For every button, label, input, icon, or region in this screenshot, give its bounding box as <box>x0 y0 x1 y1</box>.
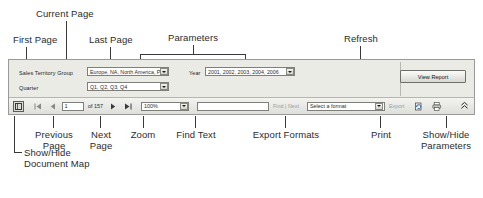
param-label-sales-territory-group: Sales Territory Group <box>19 69 73 77</box>
first-page-icon[interactable] <box>32 101 43 112</box>
callout-export-formats: Export Formats <box>247 129 325 140</box>
callout-show-hide-document-map: Show/Hide Document Map <box>24 147 90 169</box>
param-value-quarter: Q1, Q2, Q3, Q4 <box>88 84 160 90</box>
find-next-label[interactable]: Find | Next <box>273 103 299 109</box>
chevron-down-icon[interactable] <box>160 83 168 90</box>
current-page-input[interactable] <box>62 102 84 111</box>
double-chevron-up-icon[interactable] <box>460 101 469 111</box>
param-combo-quarter[interactable]: Q1, Q2, Q3, Q4 <box>87 82 169 91</box>
leader-line-parameters-bar <box>140 54 246 55</box>
annotated-screenshot: First Page Current Page Last Page Parame… <box>0 0 483 198</box>
leader-line-zoom <box>143 116 144 128</box>
refresh-icon[interactable] <box>413 101 424 112</box>
callout-last-page: Last Page <box>89 34 133 45</box>
param-combo-sales-territory-group[interactable]: Europe, NA, North America, Pa <box>87 67 169 76</box>
param-value-year: 2001, 2002, 2003, 2004, 2006 <box>206 69 286 75</box>
view-report-button[interactable]: View Report <box>400 70 466 83</box>
callout-show-hide-parameters: Show/Hide Parameters <box>415 129 477 151</box>
last-page-icon[interactable] <box>122 101 133 112</box>
document-map-icon[interactable] <box>13 101 24 112</box>
callout-parameters: Parameters <box>168 32 218 43</box>
callout-first-page: First Page <box>13 34 57 45</box>
export-label[interactable]: Export <box>389 103 405 109</box>
print-icon[interactable] <box>432 101 443 112</box>
report-viewer-panel: Sales Territory Group Europe, NA, North … <box>8 59 475 115</box>
leader-line-parameters-stem <box>193 45 194 54</box>
page-count-label: of 157 <box>88 103 103 109</box>
param-label-year: Year <box>189 69 201 77</box>
leader-line-document-map-vertical <box>14 116 15 152</box>
chevron-down-icon[interactable] <box>180 103 188 110</box>
leader-line-previous-page <box>53 116 54 128</box>
chevron-down-icon[interactable] <box>375 103 383 110</box>
param-value-sales-territory-group: Europe, NA, North America, Pa <box>88 69 160 75</box>
param-combo-year[interactable]: 2001, 2002, 2003, 2004, 2006 <box>205 67 295 76</box>
callout-print: Print <box>363 129 399 140</box>
export-format-value: Select a format <box>308 103 376 109</box>
callout-current-page: Current Page <box>36 8 94 19</box>
callout-refresh: Refresh <box>344 33 378 44</box>
chevron-down-icon[interactable] <box>160 68 168 75</box>
leader-line-find-text <box>195 116 196 128</box>
previous-page-icon[interactable] <box>47 101 58 112</box>
leader-line-document-map-horizontal <box>14 152 22 153</box>
find-text-input[interactable] <box>197 102 269 111</box>
zoom-value: 100% <box>142 103 180 109</box>
callout-zoom: Zoom <box>124 129 162 140</box>
export-format-select[interactable]: Select a format <box>307 102 385 111</box>
leader-line-show-hide-parameters <box>446 116 447 128</box>
next-page-icon[interactable] <box>107 101 118 112</box>
leader-line-print <box>380 116 381 128</box>
zoom-select[interactable]: 100% <box>141 102 189 111</box>
param-label-quarter: Quarter <box>19 84 38 92</box>
leader-line-next-page <box>100 116 101 128</box>
chevron-down-icon[interactable] <box>286 68 294 75</box>
report-toolbar: of 157 100% <box>9 98 474 114</box>
parameters-area: Sales Territory Group Europe, NA, North … <box>9 60 474 98</box>
callout-find-text: Find Text <box>170 129 222 140</box>
leader-line-export-formats <box>285 116 286 128</box>
